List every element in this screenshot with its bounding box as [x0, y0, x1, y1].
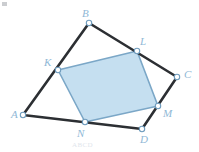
- vertex-label-A: A: [10, 108, 18, 120]
- vertex-marker-K: [55, 67, 60, 72]
- vertex-label-M: M: [162, 107, 173, 119]
- vertex-label-N: N: [76, 127, 85, 139]
- vertex-label-C: C: [184, 68, 192, 80]
- inner-quadrilateral-KLMN: [58, 51, 158, 122]
- vertex-marker-C: [174, 74, 179, 79]
- vertex-label-D: D: [139, 133, 148, 145]
- vertex-label-L: L: [139, 35, 146, 47]
- vertex-label-K: K: [43, 56, 52, 68]
- geometry-figure-canvas: A B C D K L M N ABCD: [0, 0, 199, 152]
- vertex-marker-L: [134, 48, 139, 53]
- vertex-marker-M: [155, 103, 160, 108]
- vertex-marker-N: [82, 119, 87, 124]
- vertex-marker-A: [20, 112, 25, 117]
- ghost-text-remnant: ABCD: [72, 141, 93, 149]
- vertex-marker-D: [139, 126, 144, 131]
- vertex-label-B: B: [82, 7, 89, 19]
- vertex-marker-B: [86, 20, 91, 25]
- geometry-figure: A B C D K L M N: [0, 0, 199, 152]
